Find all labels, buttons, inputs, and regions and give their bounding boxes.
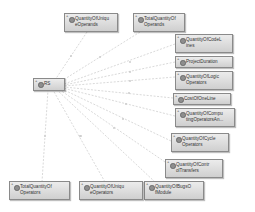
edge-n6 <box>64 87 173 98</box>
expand-icon[interactable]: + <box>177 72 179 76</box>
expand-icon[interactable]: + <box>81 182 83 186</box>
node-quantity-of-computing-operators[interactable]: + QuantityOfCompu tingOperatorsAn... <box>175 108 235 127</box>
node-label-line1: ProjectDuration <box>186 59 230 65</box>
edge-n4 <box>64 62 175 85</box>
node-icon <box>178 97 184 103</box>
node-label-line2: Operators <box>182 142 226 148</box>
expand-icon[interactable]: + <box>177 57 179 61</box>
node-icon <box>180 75 186 81</box>
node-label-line1: CostOfOneLine <box>184 96 228 102</box>
node-quantity-of-code-lines[interactable]: + QuantityOfCodeL ines <box>175 34 233 53</box>
diagram-canvas: + RS + QuantityOfUniqu eOperands + Total… <box>0 0 255 212</box>
node-quantity-of-unique-operators[interactable]: + QuantityOfUniqu eOperators <box>79 181 143 200</box>
node-label-line2: tingOperatorsAn... <box>186 117 232 123</box>
expand-icon[interactable]: + <box>135 14 137 18</box>
expand-icon[interactable]: + <box>35 79 37 83</box>
expand-icon[interactable]: + <box>177 109 179 113</box>
expand-icon[interactable]: + <box>173 134 175 138</box>
node-label-line2: olTransfers <box>176 168 220 174</box>
edge-n10 <box>57 90 155 182</box>
node-label-line2: Operators <box>186 80 230 86</box>
node-icon <box>84 185 90 191</box>
node-icon <box>170 163 176 169</box>
node-label-line2: eOperators <box>90 190 140 196</box>
node-icon <box>180 112 186 118</box>
node-icon <box>180 60 186 66</box>
node-icon <box>149 185 155 191</box>
node-label-line2: ines <box>186 43 230 49</box>
node-quantity-of-unique-operands[interactable]: + QuantityOfUniqu eOperands <box>64 13 118 32</box>
expand-icon[interactable]: + <box>177 35 179 39</box>
node-total-quantity-of-operators[interactable]: + TotalQuantityOf Operators <box>9 181 70 200</box>
expand-icon[interactable]: + <box>66 14 68 18</box>
expand-icon[interactable]: + <box>11 182 13 186</box>
expand-icon[interactable]: + <box>167 160 169 164</box>
node-cost-of-one-line[interactable]: + CostOfOneLine <box>173 93 231 105</box>
node-icon <box>176 137 182 143</box>
node-label-line2: fModule <box>155 190 201 196</box>
edge-n3 <box>64 44 175 84</box>
node-icon <box>14 185 20 191</box>
node-icon <box>138 17 144 23</box>
node-label-line2: Operands <box>144 22 182 28</box>
expand-icon[interactable]: + <box>146 182 148 186</box>
node-quantity-of-cycle-operators[interactable]: + QuantityOfCycle Operators <box>171 133 229 152</box>
node-quantity-of-bugs-of-module[interactable]: + QuantityOfBugsO fModule <box>144 181 204 200</box>
node-project-duration[interactable]: + ProjectDuration <box>175 56 233 68</box>
edge-n8 <box>62 89 171 141</box>
node-quantity-of-logic-operators[interactable]: + QuantityOfLogic Operators <box>175 71 233 90</box>
node-label-line2: eOperands <box>75 22 115 28</box>
edge-n11 <box>53 90 105 182</box>
edge-n9 <box>60 90 165 162</box>
node-icon <box>180 38 186 44</box>
node-icon <box>38 82 44 88</box>
node-icon <box>69 17 75 23</box>
node-rs[interactable]: + RS <box>33 78 65 91</box>
node-label-line2: Operators <box>20 190 67 196</box>
expand-icon[interactable]: + <box>175 94 177 98</box>
node-quantity-of-control-transfers[interactable]: + QuantityOfContr olTransfers <box>165 159 223 178</box>
node-total-quantity-of-operands[interactable]: + TotalQuantityOf Operands <box>133 13 185 32</box>
node-label: RS <box>44 81 62 87</box>
